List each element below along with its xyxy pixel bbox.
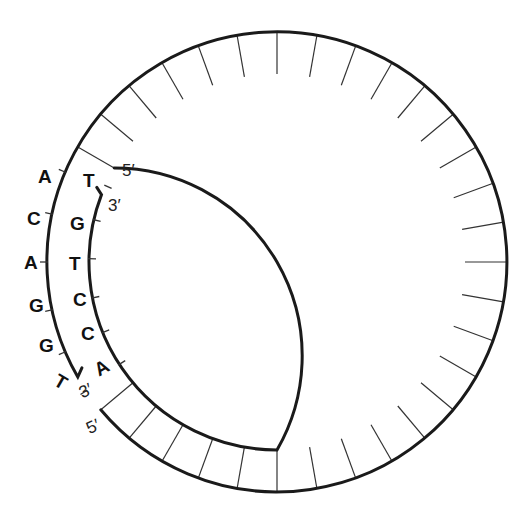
bottom-5prime-label: 5′: [83, 415, 103, 438]
outer-base-6: T: [50, 370, 71, 394]
outer-base-2: C: [27, 208, 41, 229]
ring-divider: [398, 406, 425, 438]
ring-divider: [371, 63, 392, 99]
ring-divider: [341, 439, 355, 478]
inner-base-6: A: [90, 355, 113, 380]
ring-divider: [129, 86, 156, 118]
ring-divider: [198, 439, 212, 478]
ring-divider: [462, 222, 503, 229]
outer-base-5: G: [39, 335, 54, 356]
ring-divider: [237, 447, 244, 488]
ring-divider: [371, 425, 392, 461]
ring-divider: [341, 46, 355, 85]
ring-divider: [398, 86, 425, 118]
ring-divider: [421, 383, 453, 410]
inner-3prime-label: 3′: [108, 196, 121, 215]
inner-base-4: C: [73, 289, 87, 310]
outer-base-1: A: [38, 166, 52, 187]
ring-divider: [162, 425, 183, 461]
ring-divider: [162, 63, 183, 99]
ring-divider: [440, 356, 476, 377]
ring-divider: [237, 36, 244, 77]
ring-divider: [78, 147, 114, 168]
outer-base-4: G: [29, 295, 44, 316]
inner-strand-arc: [89, 168, 302, 450]
ring-divider: [462, 295, 503, 302]
inner-base-1: T: [83, 170, 95, 191]
ring-divider: [421, 114, 453, 141]
ring-divider: [440, 147, 476, 168]
inner-base-2: G: [70, 213, 85, 234]
ring-divider: [454, 183, 493, 197]
ring-divider: [198, 46, 212, 85]
inner-base-5: C: [81, 323, 95, 344]
outer-base-3: A: [24, 252, 38, 273]
ring-divider: [454, 326, 493, 340]
ring-divider: [310, 36, 317, 77]
outer-3prime-label: 3′: [76, 379, 96, 402]
inner-base-tick: [104, 185, 111, 188]
ring-divider: [101, 114, 133, 141]
ring-divider: [101, 383, 133, 410]
circular-dna-diagram: A C A G G T T G T C C A 5′ 3′ 3′ 5′: [0, 0, 529, 516]
ring-divider: [129, 406, 156, 438]
inner-base-3: T: [69, 253, 81, 274]
ring-divider: [310, 447, 317, 488]
top-5prime-label: 5′: [122, 161, 135, 180]
